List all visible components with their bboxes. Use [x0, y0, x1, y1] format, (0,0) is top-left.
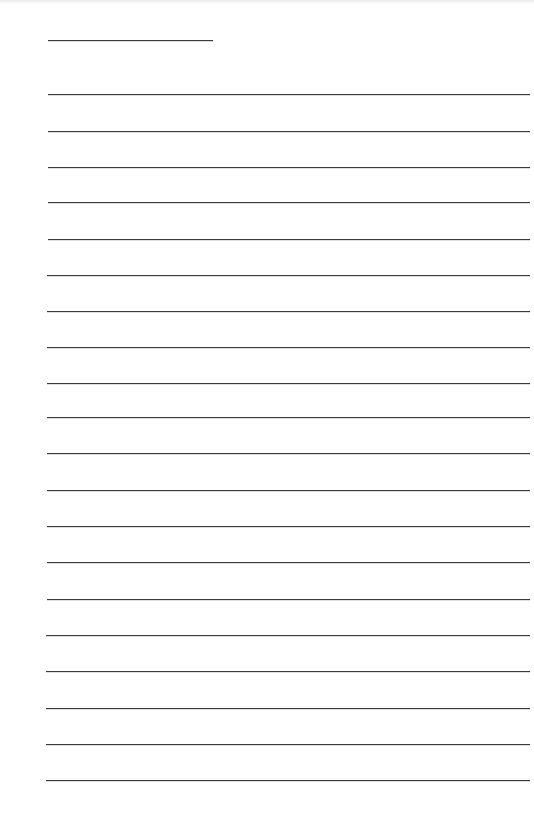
write-line	[46, 780, 530, 781]
write-line	[48, 239, 530, 240]
write-line	[47, 599, 530, 600]
write-line	[46, 671, 530, 672]
write-line	[48, 94, 530, 95]
header-write-line	[48, 40, 213, 41]
write-line	[48, 167, 530, 168]
write-line	[47, 526, 530, 527]
write-line	[46, 635, 530, 636]
write-line	[47, 311, 530, 312]
write-line	[47, 275, 530, 276]
write-line	[47, 490, 530, 491]
write-line	[48, 131, 530, 132]
write-line	[48, 202, 530, 203]
write-line	[47, 347, 530, 348]
write-line	[47, 453, 530, 454]
write-line	[46, 744, 530, 745]
write-line	[46, 708, 530, 709]
scan-edge-shadow	[0, 0, 534, 4]
lined-paper-page	[0, 0, 534, 831]
write-line	[47, 562, 530, 563]
write-line	[47, 383, 530, 384]
write-line	[47, 417, 530, 418]
